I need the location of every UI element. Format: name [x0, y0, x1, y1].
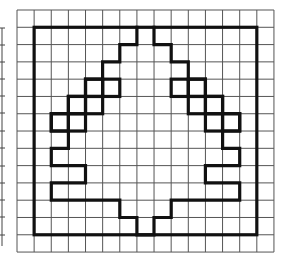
outlined-cell	[205, 96, 222, 113]
grid-drawing	[0, 0, 287, 267]
outlined-cell	[223, 114, 240, 131]
outlined-cell	[51, 114, 68, 131]
outlined-cell	[205, 114, 222, 131]
outlined-cell	[86, 79, 103, 96]
outlined-cell	[103, 79, 120, 96]
outlined-cell	[188, 79, 205, 96]
outlined-cell	[86, 96, 103, 113]
outlined-cells	[51, 79, 239, 131]
outlined-cell	[188, 96, 205, 113]
outlined-cell	[171, 79, 188, 96]
outlined-cell	[68, 114, 85, 131]
outlined-cell	[68, 96, 85, 113]
neighbor-grid-edge	[0, 28, 5, 246]
